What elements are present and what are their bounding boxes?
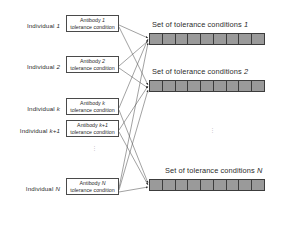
link-indN-set1 [119,43,148,188]
set-title-2: Set of tolerance conditions 2 [152,67,248,76]
diagram-canvas: Individual 1 Individual 2 Individual k I… [0,0,296,226]
antibody-box-k1: Antibody k+1 tolerance condition [66,120,119,137]
condition-cell [201,34,214,44]
condition-cell [214,81,227,91]
condition-cell [239,180,252,190]
antibody-box-1-index: 1 [102,17,105,23]
condition-cell [239,81,252,91]
antibody-box-k1-prefix: Antibody [77,122,98,128]
individual-label-1: Individual 1 [8,22,60,29]
link-indk1-setN [119,132,148,185]
tolerance-conditions-bar-N [149,179,265,191]
individual-label-k1-index: k+1 [49,127,60,134]
set-title-1-index: 1 [244,20,248,29]
antibody-box-k: Antibody k tolerance condition [66,98,119,115]
condition-cell [214,34,227,44]
antibody-box-N-prefix: Antibody [80,180,101,186]
antibody-box-k-prefix: Antibody [80,100,101,106]
individual-label-1-prefix: Individual [27,22,55,29]
link-ind1-set1 [119,25,148,38]
ellipsis-dot-2: ⋮ [210,128,211,132]
individual-label-2-prefix: Individual [27,63,55,70]
individual-label-k1-prefix: Individual [20,127,48,134]
condition-cell [163,180,176,190]
condition-cell [239,34,252,44]
tolerance-conditions-bar-1 [149,33,265,45]
link-indk1-set2 [119,86,148,130]
condition-cell [188,81,201,91]
antibody-box-k-line2: tolerance condition [70,107,114,113]
condition-cell [201,81,214,91]
set-title-2-text: Set of tolerance conditions [152,67,242,76]
condition-cell [252,81,264,91]
condition-cell [163,34,176,44]
individual-label-k: Individual k [8,105,60,112]
set-title-N-index: N [257,166,262,175]
antibody-box-N-line2: tolerance condition [70,187,114,193]
link-indk-set1 [119,39,148,108]
link-indN-setN [119,187,148,192]
antibody-box-2: Antibody 2 tolerance condition [66,56,119,73]
condition-cell [201,180,214,190]
condition-cell [176,81,189,91]
link-ind2-set2 [119,68,148,88]
set-title-2-index: 2 [244,67,248,76]
individuals-ellipsis: ⋮ [92,146,93,150]
condition-cell [227,180,240,190]
individual-label-2: Individual 2 [8,63,60,70]
condition-cell [150,180,163,190]
individual-label-N: Individual N [8,185,60,192]
condition-cell [252,180,264,190]
antibody-box-1-prefix: Antibody [80,17,101,23]
tolerance-conditions-bar-2 [149,80,265,92]
sets-ellipsis: ⋮ [210,128,211,132]
individual-label-k1: Individual k+1 [2,127,60,134]
antibody-box-2-index: 2 [102,58,105,64]
condition-cell [150,34,163,44]
condition-cell [150,81,163,91]
condition-cell [214,180,227,190]
condition-cell [188,34,201,44]
condition-cell [176,34,189,44]
link-ind1-set2 [119,27,148,85]
antibody-box-N: Antibody N tolerance condition [66,178,119,195]
set-title-N-text: Set of tolerance conditions [165,166,255,175]
antibody-box-2-prefix: Antibody [80,58,101,64]
condition-cell [176,180,189,190]
individual-label-2-index: 2 [56,63,60,70]
antibody-box-k1-index: k+1 [99,122,108,128]
set-title-1: Set of tolerance conditions 1 [152,20,248,29]
antibody-box-k-index: k [102,100,105,106]
set-title-1-text: Set of tolerance conditions [152,20,242,29]
condition-cell [188,180,201,190]
individual-label-N-index: N [55,185,60,192]
set-title-N: Set of tolerance conditions N [165,166,262,175]
condition-cell [227,81,240,91]
antibody-box-k1-line2: tolerance condition [70,129,114,135]
individual-label-1-index: 1 [56,22,60,29]
antibody-box-1: Antibody 1 tolerance condition [66,15,119,32]
antibody-box-1-line2: tolerance condition [70,24,114,30]
ellipsis-dot-1: ⋮ [92,146,93,150]
individual-label-k-index: k [57,105,60,112]
antibody-box-2-line2: tolerance condition [70,65,114,71]
condition-cell [163,81,176,91]
individual-label-k-prefix: Individual [27,105,55,112]
individual-label-N-prefix: Individual [26,185,54,192]
link-indN-set2 [119,90,148,190]
condition-cell [252,34,264,44]
link-ind2-set1 [119,41,148,66]
link-indk-setN [119,110,148,183]
antibody-box-N-index: N [102,180,106,186]
condition-cell [227,34,240,44]
